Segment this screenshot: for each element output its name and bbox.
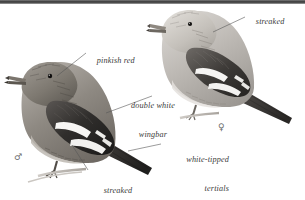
annotation-streaked: streaked — [247, 7, 284, 36]
annotation-pinkish-red-line1: pinkish red — [97, 56, 135, 65]
female-symbol: ♀ — [218, 122, 225, 132]
annotation-white-tipped-tertials: white-tipped tertials — [163, 136, 229, 200]
male-symbol: ♂ — [14, 152, 22, 162]
annotation-streaked-line1: streaked — [256, 17, 285, 26]
annotation-double-white-wingbar-line1: double white — [116, 101, 190, 111]
annotation-pinkish-red: pinkish red — [88, 46, 135, 75]
annotation-streaked-flanks: streaked flanks — [90, 167, 146, 200]
leader-pinkish-red — [57, 53, 86, 76]
annotation-white-tipped-tertials-line1: white-tipped — [163, 155, 229, 165]
annotation-streaked-flanks-line1: streaked — [90, 186, 146, 196]
illustration-plate: pinkish red double white wingbar streake… — [0, 0, 305, 200]
leader-streaked-flanks — [72, 145, 88, 170]
annotation-white-tipped-tertials-line2: tertials — [163, 184, 229, 194]
leader-streaked — [213, 17, 245, 32]
